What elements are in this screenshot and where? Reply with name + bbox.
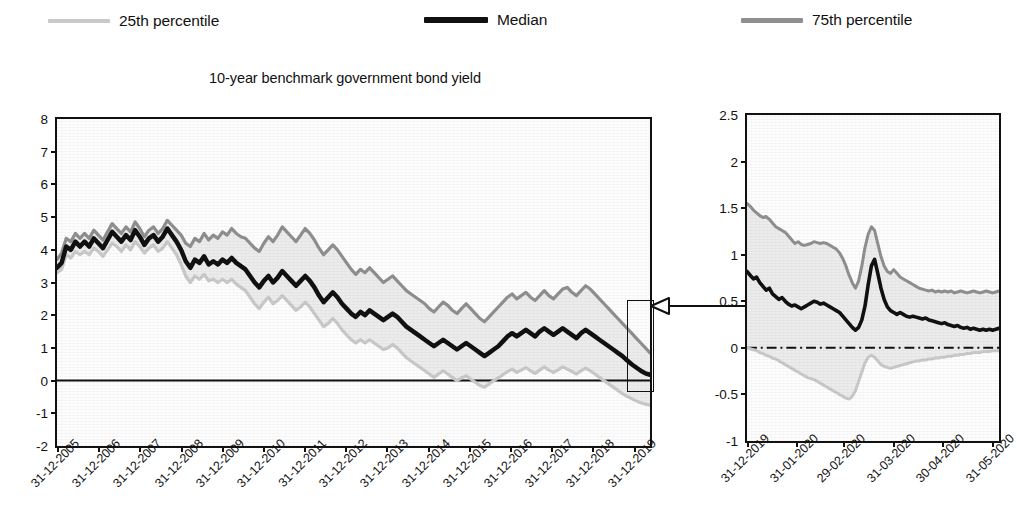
y-axis-tick-mark: [51, 183, 57, 185]
y-axis-tick-mark: [51, 216, 57, 218]
y-axis-tick-mark: [741, 254, 747, 256]
legend-label-median: Median: [497, 11, 547, 29]
zoom-chart-plot-area: 2.521.510.50-0.5-1 31-12-201931-01-20202…: [745, 113, 1001, 443]
legend-item-25th-percentile: 25th percentile: [48, 12, 219, 30]
y-axis-tick-mark: [741, 300, 747, 302]
y-axis-tick-mark: [51, 151, 57, 153]
y-axis-tick-mark: [741, 347, 747, 349]
main-chart-plot-area: 876543210-1-2 31-12-200531-12-200631-12-…: [55, 117, 652, 448]
y-axis-tick-mark: [741, 393, 747, 395]
legend-label-25th-percentile: 25th percentile: [119, 12, 219, 30]
main-chart-canvas: [57, 119, 650, 446]
zoom-chart-canvas: [747, 115, 999, 441]
y-axis-tick-mark: [741, 161, 747, 163]
y-axis-tick-mark: [741, 207, 747, 209]
legend-item-median: Median: [424, 11, 547, 29]
y-axis-tick-mark: [51, 282, 57, 284]
y-axis-tick-label: -1: [726, 434, 747, 449]
y-axis-tick-mark: [51, 380, 57, 382]
legend-swatch-75th-percentile: [741, 18, 803, 23]
y-axis-tick-mark: [51, 347, 57, 349]
zoom-chart-panel: 2.521.510.50-0.5-1 31-12-201931-01-20202…: [690, 96, 1010, 507]
y-axis-tick-label: 8: [40, 112, 57, 127]
legend-item-75th-percentile: 75th percentile: [741, 11, 912, 29]
y-axis-tick-mark: [51, 249, 57, 251]
legend-swatch-25th-percentile: [48, 19, 110, 23]
y-axis-tick-label: 2.5: [719, 108, 747, 123]
y-axis-tick-mark: [51, 412, 57, 414]
chart-title: 10-year benchmark government bond yield: [0, 70, 690, 86]
chart-legend: 25th percentile Median 75th percentile: [0, 0, 1010, 44]
legend-swatch-median: [424, 17, 488, 23]
legend-label-75th-percentile: 75th percentile: [812, 11, 912, 29]
main-chart-panel: 876543210-1-2 31-12-200531-12-200631-12-…: [0, 100, 690, 507]
y-axis-tick-mark: [51, 314, 57, 316]
y-axis-tick-label: -2: [36, 439, 57, 454]
